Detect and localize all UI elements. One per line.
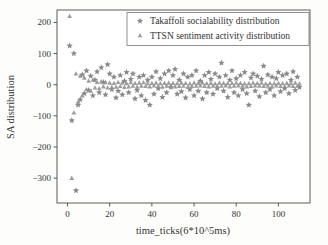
y-tick-label: −300: [32, 173, 51, 183]
y-tick-label: 100: [38, 49, 52, 59]
y-tick-label: 0: [47, 80, 52, 90]
x-tick-label: 40: [147, 209, 157, 219]
y-tick-label: 200: [38, 17, 52, 27]
scatter-figure: 0204060801002001000−100−200−300Takaffoli…: [0, 0, 328, 245]
x-tick-label: 60: [190, 209, 200, 219]
legend-label: TTSN sentiment activity distribution: [150, 31, 290, 41]
y-axis-label: SA distribution: [5, 74, 16, 139]
x-tick-label: 20: [105, 209, 115, 219]
legend-label: Takaffoli socialability distribution: [150, 16, 280, 26]
x-tick-label: 80: [232, 209, 242, 219]
y-tick-label: −100: [32, 111, 51, 121]
x-tick-label: 100: [272, 209, 286, 219]
x-tick-label: 0: [65, 209, 70, 219]
x-axis-label: time_ticks(6*10^5ms): [136, 225, 231, 237]
scatter-plot: 0204060801002001000−100−200−300Takaffoli…: [0, 0, 328, 245]
y-tick-label: −200: [32, 142, 51, 152]
